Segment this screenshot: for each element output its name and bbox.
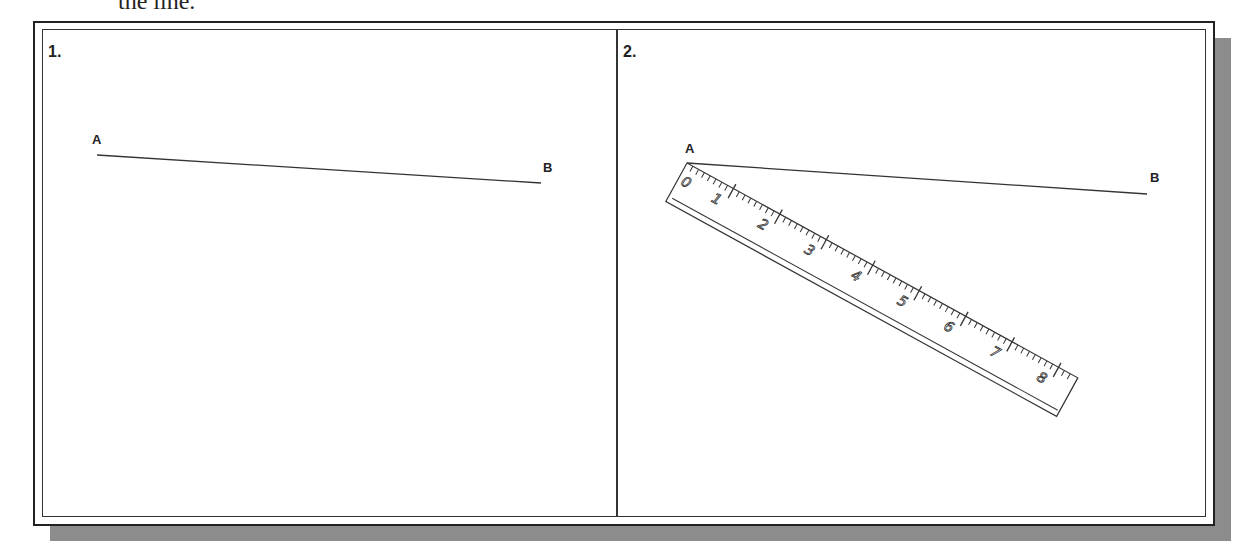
ruler-body bbox=[666, 163, 1078, 416]
panel-2-drawing: A B 012345678 bbox=[666, 141, 1160, 416]
line-ab-panel-1 bbox=[97, 155, 541, 183]
drawing-canvas: A B A B 012345678 bbox=[0, 0, 1256, 556]
line-ab-panel-2 bbox=[687, 163, 1147, 194]
panel-1-drawing: A B bbox=[92, 132, 552, 183]
point-b-label-panel-1: B bbox=[543, 160, 552, 175]
point-a-label-panel-1: A bbox=[92, 132, 102, 147]
ruler[interactable]: 012345678 bbox=[666, 159, 1080, 417]
point-b-label-panel-2: B bbox=[1150, 170, 1159, 185]
point-a-label-panel-2: A bbox=[685, 141, 695, 156]
ruler-edge-strip bbox=[672, 198, 1058, 410]
